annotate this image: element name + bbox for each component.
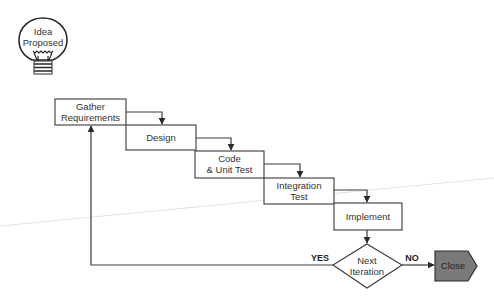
end-close: Close <box>435 251 477 281</box>
step-design: Design <box>126 125 196 150</box>
start-label-line1: Idea <box>34 26 53 37</box>
step-implement: Implement <box>334 203 402 230</box>
step-code-unit-test: Code & Unit Test <box>195 151 264 178</box>
decision-next-iteration: Next Iteration <box>333 244 402 288</box>
yes-label: YES <box>311 253 329 263</box>
arrow-design-to-code <box>196 138 231 150</box>
step-gather-line2: Requirements <box>61 112 120 123</box>
step-integration-line1: Integration <box>277 180 322 191</box>
step-gather-line1: Gather <box>76 101 105 112</box>
step-code-line2: & Unit Test <box>207 164 253 175</box>
decision-line2: Iteration <box>350 266 384 277</box>
step-gather-requirements: Gather Requirements <box>55 99 126 125</box>
step-code-line1: Code <box>218 153 241 164</box>
end-close-label: Close <box>441 260 465 271</box>
no-label: NO <box>405 253 419 263</box>
step-integration-line2: Test <box>290 191 308 202</box>
arrow-code-to-integration <box>264 164 300 177</box>
scan-artifact-line <box>0 178 494 226</box>
step-design-line1: Design <box>146 132 176 143</box>
decision-line1: Next <box>357 255 377 266</box>
arrow-gather-to-design <box>126 112 162 124</box>
waterfall-diagram: Idea Proposed Gather Requirements Design… <box>0 0 494 298</box>
start-label-line2: Proposed <box>23 37 64 48</box>
step-integration-test: Integration Test <box>264 178 334 204</box>
step-implement-line1: Implement <box>346 211 391 222</box>
